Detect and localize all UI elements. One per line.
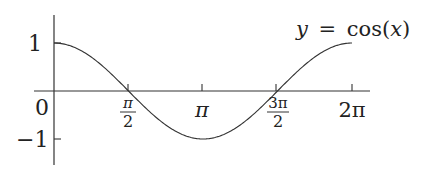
svg-text:2: 2 <box>273 112 283 131</box>
x-ticks <box>128 84 352 91</box>
x-tick-label-pi-over-2: π 2 <box>120 94 136 131</box>
function-label: y = cos(x) <box>295 17 410 41</box>
svg-text:π: π <box>122 94 134 112</box>
svg-text:3π: 3π <box>268 94 288 112</box>
x-tick-label-pi: π <box>194 98 210 122</box>
x-tick-label-3pi-over-2: 3π 2 <box>267 94 289 131</box>
x-tick-label-2pi: 2π <box>338 98 365 122</box>
svg-text:2: 2 <box>123 112 133 131</box>
x-tick-label-0: 0 <box>35 95 49 120</box>
cosine-plot: 1 −1 0 π 2 π 3π 2 2π y = cos(x) <box>0 0 433 170</box>
y-tick-label-neg1: −1 <box>16 127 48 152</box>
y-tick-label-1: 1 <box>28 31 42 56</box>
